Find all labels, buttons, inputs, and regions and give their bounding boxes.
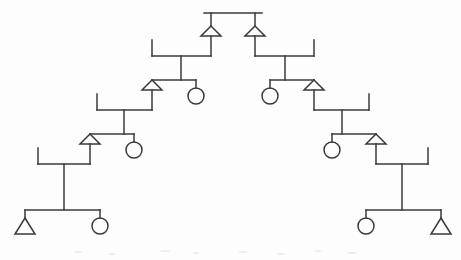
node-f-g3-right bbox=[126, 142, 142, 158]
node-m-apex-right bbox=[245, 26, 265, 36]
node-f-g2-left bbox=[262, 88, 278, 104]
edge-layer bbox=[25, 13, 441, 218]
node-m-g3-right bbox=[366, 134, 386, 144]
node-m-g4-left bbox=[15, 218, 35, 234]
node-m-apex-left bbox=[201, 26, 221, 36]
node-layer bbox=[15, 26, 451, 234]
node-m-g2-left bbox=[142, 80, 162, 90]
node-f-g3-left bbox=[324, 142, 340, 158]
node-f-g2-right bbox=[188, 88, 204, 104]
node-m-g3-left bbox=[80, 134, 100, 144]
kinship-diagram-canvas bbox=[0, 0, 461, 260]
node-f-g4-right bbox=[92, 218, 108, 234]
node-f-g4-left bbox=[358, 218, 374, 234]
node-m-g4-right bbox=[431, 218, 451, 234]
kinship-diagram bbox=[0, 0, 461, 260]
node-m-g2-right bbox=[304, 80, 324, 90]
